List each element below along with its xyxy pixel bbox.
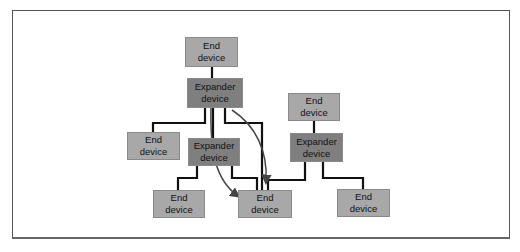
node-label-line1: End — [145, 134, 162, 145]
expander-device-middle: Expanderdevice — [188, 138, 240, 166]
node-label-line2: device — [201, 93, 228, 104]
node-label-line1: End — [306, 95, 323, 106]
node-label-line1: Expander — [195, 81, 236, 92]
end-device-bottom-right: Enddevice — [337, 189, 390, 217]
node-label-line2: device — [200, 152, 227, 163]
expander-device-top: Expanderdevice — [187, 78, 243, 108]
end-device-center: Enddevice — [238, 190, 292, 218]
node-label-line1: End — [203, 40, 220, 51]
expander-device-right: Expanderdevice — [290, 133, 343, 162]
end-device-right-top: Enddevice — [288, 93, 340, 121]
node-label-line2: device — [303, 148, 330, 159]
node-label-line2: device — [198, 52, 225, 63]
node-label-line1: End — [257, 192, 274, 203]
end-device-left: Enddevice — [127, 132, 180, 160]
node-label-line2: device — [350, 203, 377, 214]
node-label-line2: device — [165, 204, 192, 215]
node-label-line2: device — [300, 107, 327, 118]
node-label-line1: End — [171, 192, 188, 203]
end-device-top: Enddevice — [185, 37, 238, 67]
node-label-line1: Expander — [194, 140, 235, 151]
node-label-line2: device — [251, 204, 278, 215]
node-label-line2: device — [140, 146, 167, 157]
node-label-line1: Expander — [296, 136, 337, 147]
end-device-bottom-left: Enddevice — [153, 190, 205, 218]
node-label-line1: End — [355, 191, 372, 202]
